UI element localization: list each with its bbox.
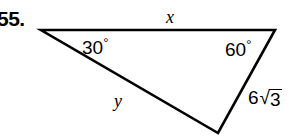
side-label-six-root-three: 6√3 xyxy=(248,88,282,109)
angle-60-value: 60 xyxy=(225,39,246,60)
side-label-x: x xyxy=(166,8,174,26)
radical-coefficient: 6 xyxy=(248,88,259,107)
angle-30-value: 30 xyxy=(82,37,103,58)
triangle-outline xyxy=(0,0,289,140)
angle-label-60: 60° xyxy=(225,40,251,59)
degree-icon: ° xyxy=(103,35,108,50)
radical-expression: √3 xyxy=(259,88,282,109)
side-label-y: y xyxy=(114,92,122,110)
angle-label-30: 30° xyxy=(82,38,108,57)
triangle-figure: 55. x y 30° 60° 6√3 xyxy=(0,0,289,140)
radicand-value: 3 xyxy=(269,89,282,109)
degree-icon: ° xyxy=(246,37,251,52)
